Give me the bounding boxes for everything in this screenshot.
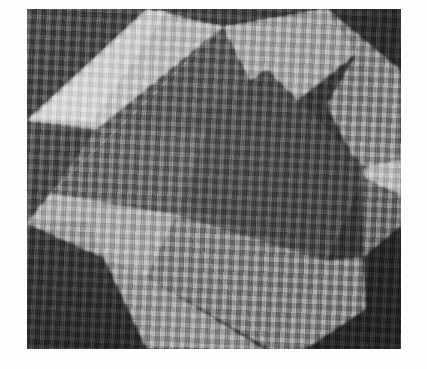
photo-page: Folded gingham fabric A grayscale photog… [0, 0, 427, 369]
sheen-shadow [27, 9, 401, 349]
fabric-facet-drawing [27, 9, 401, 349]
photograph-plate [27, 9, 401, 349]
